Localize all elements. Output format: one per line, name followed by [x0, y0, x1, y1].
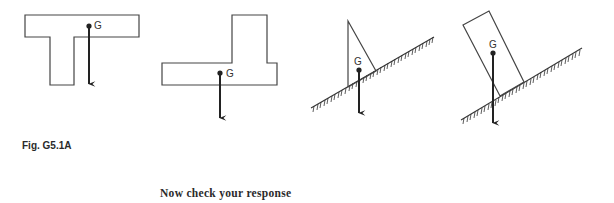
panel-triangle-on-slope: G [311, 21, 434, 113]
panel-t-shape: G [25, 15, 139, 85]
figure-caption: Fig. G5.1A [22, 140, 71, 151]
g-label: G [354, 56, 362, 67]
panel-l-shape: G [162, 15, 277, 118]
figure-canvas: G G [0, 0, 614, 203]
g-label: G [226, 68, 234, 79]
g-label: G [94, 20, 102, 31]
triangle-outline [348, 21, 376, 87]
inclined-plane [461, 48, 582, 124]
inclined-plane [311, 37, 434, 112]
check-response-prompt: Now check your response [160, 187, 291, 199]
t-shape-outline [25, 15, 139, 85]
g-label: G [489, 39, 497, 50]
panel-block-on-slope: G [461, 11, 582, 124]
